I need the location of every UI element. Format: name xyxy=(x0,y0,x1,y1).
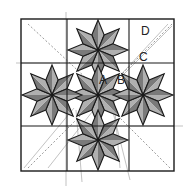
label-b: B xyxy=(117,73,125,87)
label-a: A xyxy=(99,73,107,87)
label-d: D xyxy=(141,24,150,38)
stars xyxy=(22,20,173,170)
star-bottom xyxy=(68,110,128,170)
star-left xyxy=(22,65,82,125)
quilt-diagram: A B C D xyxy=(0,0,187,186)
label-c: C xyxy=(139,50,148,64)
